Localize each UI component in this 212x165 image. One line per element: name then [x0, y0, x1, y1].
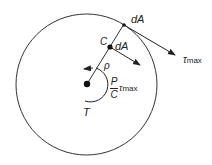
outer-dA-label: dA — [131, 14, 144, 25]
center-point — [84, 81, 90, 87]
stress-fraction: P C — [110, 77, 118, 100]
rho-label: ρ — [104, 61, 110, 71]
c-label: C — [100, 37, 107, 47]
inner-dA-label: dA — [115, 41, 128, 52]
torque-arrow-head — [84, 68, 93, 69]
tau-subscript: max — [187, 56, 202, 65]
torque-label: T — [83, 107, 90, 118]
fraction-numerator: P — [111, 77, 118, 87]
fraction-denominator: C — [110, 90, 117, 100]
inner-tau-label: τmax — [119, 84, 138, 93]
tau-max-arrow — [124, 25, 175, 55]
diagram-canvas — [0, 0, 212, 165]
tau-max-label: τmax — [183, 55, 202, 65]
inner-tau-subscript: max — [122, 84, 137, 93]
